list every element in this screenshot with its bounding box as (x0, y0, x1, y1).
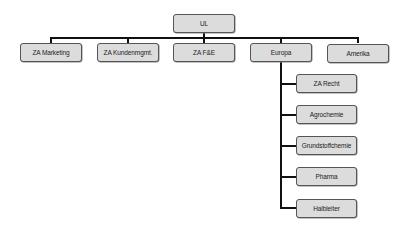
connector-za-recht (280, 83, 296, 85)
node-label: Grundstoffchemie (302, 142, 352, 149)
node-label: ZA Kundenmgmt. (104, 49, 153, 56)
node-halbleiter: Halbleiter (296, 199, 357, 218)
node-amerika: Amerika (327, 44, 389, 63)
node-label: ZA F&E (193, 49, 215, 56)
node-label: Halbleiter (313, 205, 339, 212)
node-za-marketing: ZA Marketing (20, 43, 82, 62)
node-pharma: Pharma (296, 167, 357, 186)
node-label: UL (200, 20, 208, 27)
node-za-kundenmgmt: ZA Kundenmgmt. (97, 43, 159, 62)
node-ul: UL (173, 14, 235, 33)
node-label: Amerika (346, 50, 369, 57)
node-za-recht: ZA Recht (296, 74, 357, 93)
node-label: Agrochemie (310, 111, 344, 118)
connector-agrochemie (280, 114, 296, 116)
connector-grundstoffchemie (280, 145, 296, 147)
node-label: Pharma (315, 173, 337, 180)
node-label: ZA Recht (314, 80, 340, 87)
connector-amerika (357, 37, 359, 43)
node-label: ZA Marketing (32, 49, 69, 56)
node-europa: Europa (250, 43, 312, 62)
org-chart: UL ZA Marketing ZA Kundenmgmt. ZA F&E Eu… (0, 0, 406, 228)
node-label: Europa (271, 49, 291, 56)
connector-pharma (280, 176, 296, 178)
node-za-fe: ZA F&E (173, 43, 235, 62)
connector-halbleiter (280, 207, 296, 209)
node-agrochemie: Agrochemie (296, 105, 357, 124)
node-grundstoffchemie: Grundstoffchemie (296, 136, 357, 155)
